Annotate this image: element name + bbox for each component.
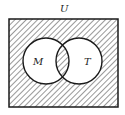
set-m-label: M <box>32 56 44 67</box>
venn-diagram: U M T <box>0 0 125 115</box>
universe-label: U <box>60 3 69 14</box>
